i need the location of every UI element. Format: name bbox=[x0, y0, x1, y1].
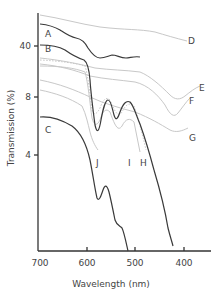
label-c: C bbox=[45, 125, 51, 135]
y-tick-label-8: 8 bbox=[25, 92, 31, 102]
light-curves bbox=[40, 15, 200, 152]
dark-curves bbox=[40, 24, 173, 251]
label-i: I bbox=[128, 158, 131, 168]
curve-c bbox=[40, 117, 128, 251]
transmission-chart: 40 8 4 700 600 500 400 Wavelength (nm) T… bbox=[0, 0, 220, 295]
label-f: F bbox=[189, 96, 194, 106]
curve-f bbox=[40, 64, 190, 115]
label-e: E bbox=[199, 83, 205, 93]
curve-d bbox=[40, 15, 187, 41]
axes bbox=[34, 13, 211, 251]
x-tick-label-500: 500 bbox=[126, 258, 143, 268]
x-tick-label-400: 400 bbox=[175, 258, 192, 268]
label-h: H bbox=[140, 158, 147, 168]
x-tick-label-700: 700 bbox=[31, 258, 48, 268]
curve-b-tail bbox=[154, 170, 173, 246]
label-j: J bbox=[95, 158, 99, 168]
y-axis-title: Transmission (%) bbox=[6, 90, 16, 168]
x-axis-title: Wavelength (nm) bbox=[72, 279, 150, 289]
label-a: A bbox=[45, 29, 52, 39]
label-d: D bbox=[188, 36, 195, 46]
y-tick-label-4: 4 bbox=[25, 150, 31, 160]
y-tick-label-40: 40 bbox=[20, 41, 32, 51]
curve-b bbox=[40, 45, 154, 170]
label-b: B bbox=[45, 44, 51, 54]
x-tick-label-600: 600 bbox=[78, 258, 95, 268]
curve-e bbox=[40, 58, 200, 99]
label-g: G bbox=[189, 133, 196, 143]
